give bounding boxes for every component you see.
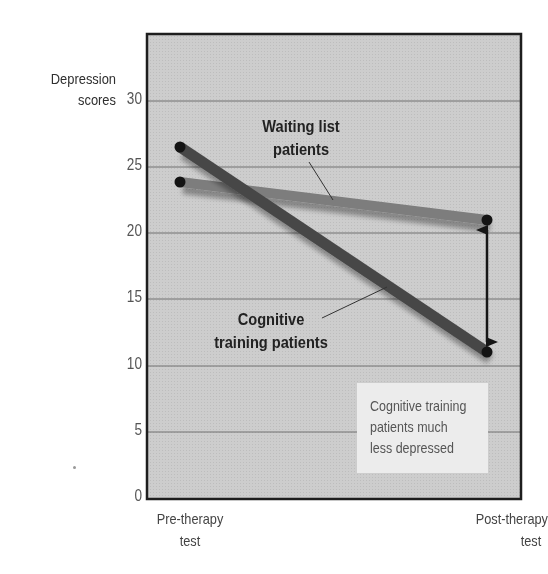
x-tick-post-line2: test [455,530,548,552]
x-tick-post-line1: Post-therapy [455,508,548,530]
y-tick-30: 30 [117,90,143,108]
x-tick-pre-line2: test [148,530,233,552]
cognitive-label-line1: Cognitive [207,308,336,331]
annotation-line3: less depressed [370,438,465,459]
annotation-box: Cognitive training patients much less de… [357,383,488,473]
y-tick-0: 0 [117,487,143,505]
waiting-label-line2: patients [245,138,357,161]
x-tick-pre-therapy: Pre-therapy test [148,508,233,552]
cognitive-label-line2: training patients [207,331,336,354]
y-tick-5: 5 [117,421,143,439]
annotation-line2: patients much [370,417,465,438]
waiting-post-dot [482,215,493,226]
cognitive-training-label: Cognitive training patients [207,308,336,354]
x-tick-post-therapy: Post-therapy test [455,508,548,552]
waiting-pre-dot [175,177,186,188]
scan-speck [73,466,76,469]
cognitive-pre-dot [175,142,186,153]
annotation-line1: Cognitive training [370,396,465,417]
x-tick-pre-line1: Pre-therapy [148,508,233,530]
cognitive-post-dot [482,347,493,358]
y-tick-10: 10 [117,355,143,373]
waiting-label-line1: Waiting list [245,115,357,138]
y-tick-20: 20 [117,222,143,240]
y-tick-15: 15 [117,288,143,306]
waiting-list-label: Waiting list patients [245,115,357,161]
y-tick-25: 25 [117,156,143,174]
